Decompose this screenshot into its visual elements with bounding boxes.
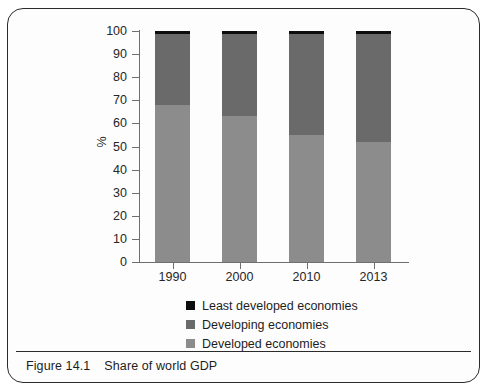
y-tick-label-0: 0 bbox=[120, 255, 127, 269]
y-tick-40: 40 bbox=[132, 170, 139, 171]
bar-segment bbox=[222, 34, 257, 116]
legend-label: Developed economies bbox=[202, 337, 326, 351]
y-tick-70: 70 bbox=[132, 100, 139, 101]
bars-container bbox=[139, 31, 407, 262]
bar-segment bbox=[155, 34, 190, 104]
y-axis-title: % bbox=[95, 136, 109, 147]
x-axis-line bbox=[139, 262, 409, 263]
legend-item: Least developed economies bbox=[186, 296, 358, 315]
y-tick-20: 20 bbox=[132, 216, 139, 217]
x-tick-1990 bbox=[173, 262, 174, 269]
bar-segment bbox=[289, 31, 324, 34]
figure-caption: Figure 14.1Share of world GDP bbox=[26, 359, 217, 373]
y-tick-label-40: 40 bbox=[113, 163, 127, 177]
bar-segment bbox=[222, 116, 257, 262]
x-tick-label-1990: 1990 bbox=[159, 270, 187, 284]
legend-swatch-icon bbox=[186, 320, 195, 329]
y-tick-60: 60 bbox=[132, 123, 139, 124]
x-tick-2000 bbox=[240, 262, 241, 269]
y-tick-10: 10 bbox=[132, 239, 139, 240]
legend-label: Least developed economies bbox=[202, 299, 358, 313]
x-tick-label-2000: 2000 bbox=[226, 270, 254, 284]
bar-segment bbox=[356, 142, 391, 262]
x-tick-label-2010: 2010 bbox=[293, 270, 321, 284]
y-tick-100: 100 bbox=[132, 31, 139, 32]
caption-divider bbox=[16, 351, 471, 352]
y-tick-label-100: 100 bbox=[106, 24, 127, 38]
bar-segment bbox=[155, 105, 190, 262]
caption-number: Figure 14.1 bbox=[26, 359, 90, 373]
bar-segment bbox=[222, 31, 257, 34]
figure-container: % 0102030405060708090100 199020002010201… bbox=[0, 0, 489, 391]
x-tick-label-2013: 2013 bbox=[360, 270, 388, 284]
y-tick-label-50: 50 bbox=[113, 140, 127, 154]
legend-swatch-icon bbox=[186, 301, 195, 310]
bar-segment bbox=[155, 31, 190, 34]
y-tick-label-20: 20 bbox=[113, 209, 127, 223]
bar-segment bbox=[356, 34, 391, 141]
x-tick-2013 bbox=[374, 262, 375, 269]
y-tick-label-90: 90 bbox=[113, 47, 127, 61]
x-tick-2010 bbox=[307, 262, 308, 269]
bar-segment bbox=[289, 34, 324, 134]
y-tick-label-60: 60 bbox=[113, 116, 127, 130]
y-tick-label-80: 80 bbox=[113, 70, 127, 84]
bar-2013 bbox=[356, 31, 391, 262]
y-tick-label-10: 10 bbox=[113, 232, 127, 246]
bar-2010 bbox=[289, 31, 324, 262]
caption-text: Share of world GDP bbox=[104, 359, 217, 373]
bar-segment bbox=[356, 31, 391, 34]
bar-segment bbox=[289, 135, 324, 262]
y-tick-label-70: 70 bbox=[113, 93, 127, 107]
legend-label: Developing economies bbox=[202, 318, 328, 332]
y-tick-label-30: 30 bbox=[113, 186, 127, 200]
y-tick-90: 90 bbox=[132, 54, 139, 55]
chart-legend: Least developed economiesDeveloping econ… bbox=[186, 296, 358, 353]
y-tick-50: 50 bbox=[132, 147, 139, 148]
y-tick-0: 0 bbox=[132, 262, 139, 263]
y-tick-30: 30 bbox=[132, 193, 139, 194]
bar-1990 bbox=[155, 31, 190, 262]
legend-swatch-icon bbox=[186, 339, 195, 348]
y-tick-80: 80 bbox=[132, 77, 139, 78]
bar-2000 bbox=[222, 31, 257, 262]
legend-item: Developing economies bbox=[186, 315, 358, 334]
